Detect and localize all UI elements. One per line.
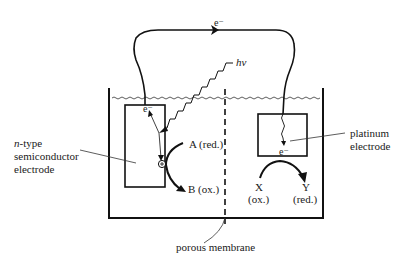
n-type-rest: -type <box>20 137 43 149</box>
species-a-label: A (red.) <box>189 138 223 151</box>
photon-label: hν <box>236 56 246 69</box>
semiconductor-electrode <box>125 105 165 187</box>
platinum-text: platinum <box>350 127 390 140</box>
species-x-state: (ox.) <box>248 193 269 206</box>
semiconductor-electrode-label: n-type semiconductor electrode <box>14 137 79 176</box>
semiconductor-electron-label: e⁻ <box>143 102 153 115</box>
platinum-electrode-label: platinum electrode <box>350 127 390 153</box>
reduction-arrow <box>260 161 303 178</box>
photon-zigzag <box>167 63 233 128</box>
platinum-electrode-text: electrode <box>350 140 390 153</box>
external-wire <box>134 30 295 114</box>
species-y-state: (red.) <box>293 193 317 206</box>
semiconductor-text: semiconductor <box>14 150 79 163</box>
diagram-canvas <box>0 0 405 257</box>
wire-electron-label: e⁻ <box>214 16 224 29</box>
platinum-electron-label: e⁻ <box>279 145 289 158</box>
membrane-leader-line <box>204 218 225 243</box>
electrolyte-surface <box>112 97 320 99</box>
oxidation-arrow <box>166 143 183 189</box>
membrane-label: porous membrane <box>176 241 255 254</box>
species-b-label: B (ox.) <box>188 183 219 196</box>
electrode-text: electrode <box>14 163 79 176</box>
